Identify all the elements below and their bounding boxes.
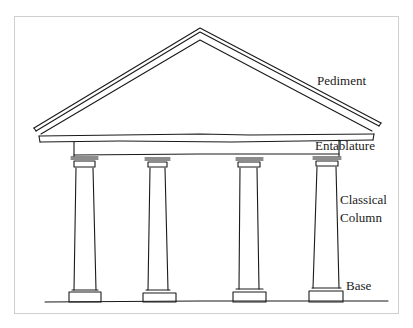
column-1	[69, 157, 101, 302]
entablature-label: Entablature	[315, 138, 375, 154]
column-4	[309, 157, 343, 302]
classical-column-label-line2: Column	[340, 210, 382, 226]
classical-column-label-line1: Classical	[340, 192, 387, 208]
pediment-label: Pediment	[317, 73, 366, 89]
figure-caption-cropped	[14, 319, 284, 328]
entablature-band	[74, 140, 339, 156]
base-label: Base	[346, 278, 371, 294]
column-2	[143, 158, 176, 302]
column-3	[233, 158, 266, 302]
